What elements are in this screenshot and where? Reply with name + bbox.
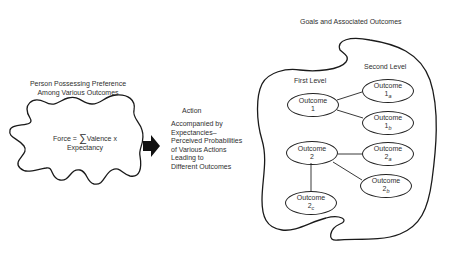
action-line: Expectancies– [171, 129, 242, 138]
formula-prefix: Force = [53, 135, 79, 142]
outcome-label: Outcome [299, 97, 327, 105]
formula-line1: Force = ∑Valence x [40, 134, 130, 144]
person-title: Person Possessing Preference Among Vario… [28, 80, 128, 97]
outcome-subscript: b [386, 188, 389, 194]
second-level-label: Second Level [364, 63, 406, 72]
outcome-2c: Outcome 2c [285, 191, 337, 215]
outcome-label: Outcome [298, 145, 326, 153]
formula-line2: Expectancy [40, 144, 130, 153]
outcome-label: Outcome [374, 145, 402, 153]
outcome-2b: Outcome 2b [360, 174, 412, 198]
outcome-1a: Outcome 1a [362, 79, 414, 103]
formula-suffix: Valence x [87, 135, 117, 142]
action-line: Leading to [171, 154, 242, 163]
action-line: Perceived Probabilities [171, 137, 242, 146]
action-description: Accompanied by Expectancies– Perceived P… [171, 120, 242, 172]
connector-2-2b [333, 162, 362, 180]
outcome-1: Outcome 1 [287, 93, 339, 117]
connector-1-1b [337, 110, 363, 118]
force-formula: Force = ∑Valence x Expectancy [40, 134, 130, 152]
action-line: of Various Actions [171, 146, 242, 155]
outcome-number: 2 [310, 153, 314, 161]
action-line: Accompanied by [171, 120, 242, 129]
goals-title: Goals and Associated Outcomes [300, 18, 402, 27]
outcome-2a: Outcome 2a [362, 142, 414, 166]
outcome-label: Outcome [374, 82, 402, 90]
outcome-subscript: c [312, 205, 315, 211]
outcome-1b: Outcome 1b [362, 111, 414, 135]
outcome-label: Outcome [372, 177, 400, 185]
outcome-number: 1 [311, 105, 315, 113]
person-title-line1: Person Possessing Preference [28, 80, 128, 89]
outcome-subscript: a [388, 156, 391, 162]
outcome-2: Outcome 2 [286, 141, 338, 165]
sigma-symbol: ∑ [79, 132, 87, 144]
person-title-line2: Among Various Outcomes [28, 89, 128, 98]
connector-1-1a [337, 92, 362, 100]
outcome-label: Outcome [374, 114, 402, 122]
action-title: Action [182, 107, 201, 116]
outcome-label: Outcome [297, 194, 325, 202]
action-line: Different Outcomes [171, 163, 242, 172]
right-arrow-icon [143, 135, 160, 157]
outcome-subscript: a [388, 93, 391, 99]
first-level-label: First Level [294, 77, 326, 86]
outcome-subscript: b [388, 125, 391, 131]
goals-blob-outline [258, 38, 437, 240]
